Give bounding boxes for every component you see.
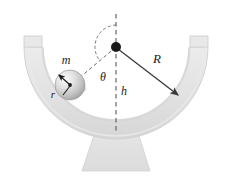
theta-angle-label: θ bbox=[100, 70, 106, 84]
physics-diagram-figure: m r R θ h bbox=[0, 0, 227, 180]
rolling-sphere bbox=[55, 70, 87, 100]
bowl-rim-left bbox=[24, 36, 42, 47]
center-of-curvature-dot bbox=[111, 42, 121, 52]
bowl-radius-arrow bbox=[118, 49, 178, 95]
sphere-radius-label: r bbox=[51, 88, 56, 100]
height-label: h bbox=[121, 84, 127, 98]
diagram-canvas: m r R θ h bbox=[0, 0, 227, 180]
bowl-radius-label: R bbox=[152, 51, 161, 66]
mass-label: m bbox=[62, 53, 71, 67]
bowl-rim-right bbox=[190, 36, 208, 47]
